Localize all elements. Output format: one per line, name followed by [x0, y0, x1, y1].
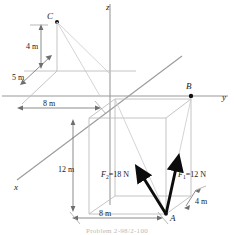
x-axis-label: x [13, 182, 18, 192]
force-label-f2: F2=18 N [100, 170, 129, 180]
dim-label-8m-bottom: 8 m [99, 209, 112, 218]
point-b-marker [189, 94, 193, 98]
force-f2-value: =18 N [109, 170, 130, 179]
dim-5m-arrow-upper [46, 55, 53, 61]
dim-12m-arrow-bottom [71, 206, 76, 212]
force-vector-f1 [166, 168, 176, 214]
dim-label-4m-depth: 4 m [195, 197, 208, 206]
y-axis-label: y [221, 92, 226, 102]
force-label-f1: F1=12 N [177, 170, 206, 180]
statics-figure: C 4 m 5 m 8 m 12 m 8 m 4 m B A [0, 0, 234, 235]
c-to-axis-line-1 [57, 22, 100, 96]
dim-label-4m-c: 4 m [26, 42, 39, 51]
line-origin-to-a [115, 99, 166, 214]
dim-5m-line [22, 57, 50, 83]
dim-8m-bottom-arrow-right [157, 216, 163, 221]
dim-4m-depth-arrow-lower [184, 205, 190, 210]
dim-4m-depth-tick [196, 186, 206, 190]
force-vector-f2 [143, 177, 166, 214]
figure-caption: Problem 2-98/2-100 [0, 227, 234, 235]
c-to-axis-line-2 [57, 22, 110, 74]
point-c-label: C [47, 11, 54, 21]
point-b-label: B [186, 81, 192, 91]
dim-label-8m-upper: 8 m [43, 99, 56, 108]
box-top-face [89, 99, 191, 118]
dim-12m-arrow-top [71, 119, 76, 125]
z-axis-label: z [105, 2, 110, 12]
dim-label-12m: 12 m [58, 165, 75, 174]
point-a-label: A [169, 213, 176, 223]
force-f1-value: =12 N [186, 170, 207, 179]
figure-canvas: C 4 m 5 m 8 m 12 m 8 m 4 m B A [0, 0, 234, 235]
dim-label-5m: 5 m [12, 73, 25, 82]
dim-8m-upper-arrow-left [17, 106, 23, 111]
